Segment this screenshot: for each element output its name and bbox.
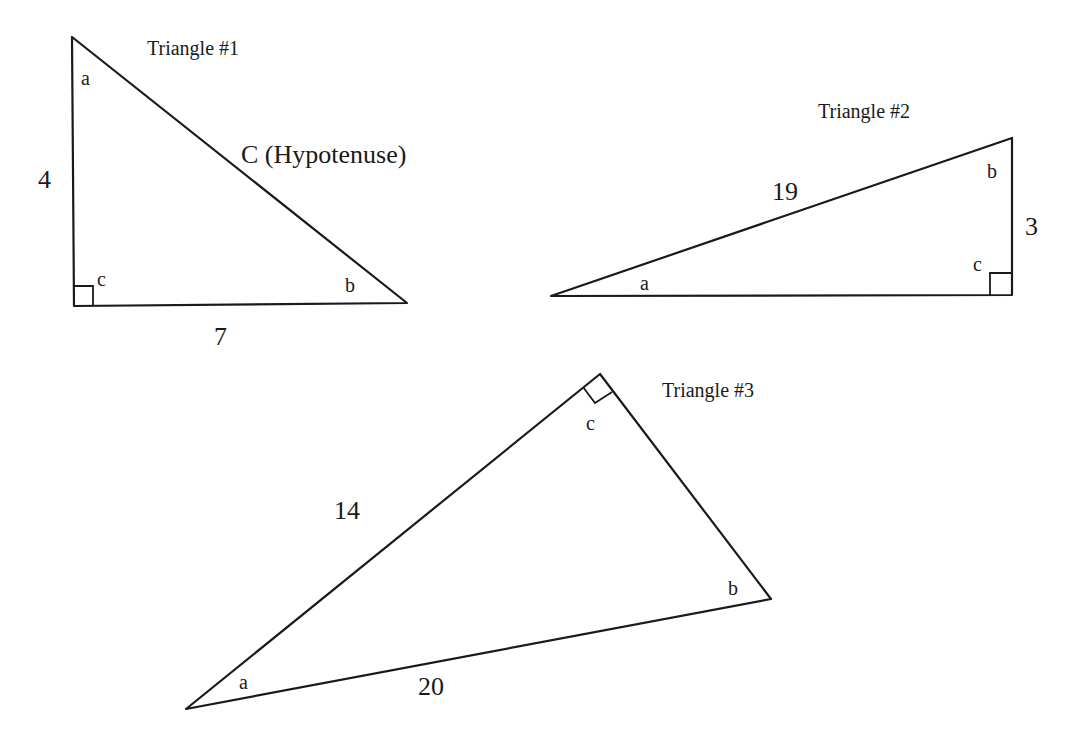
triangle-3-title: Triangle #3	[662, 379, 754, 402]
triangle-1-shape	[72, 37, 407, 306]
triangle-1-angle-b-label: b	[345, 274, 355, 296]
triangle-2-title: Triangle #2	[818, 100, 910, 123]
triangle-1: Triangle #1 a b c 4 7 C (Hypotenuse)	[38, 37, 407, 351]
triangle-3-angle-a-label: a	[239, 671, 248, 693]
triangle-1-hypotenuse-label: C (Hypotenuse)	[241, 140, 406, 169]
triangle-2-shape	[551, 138, 1012, 296]
triangle-3-angle-b-label: b	[728, 577, 738, 599]
triangle-1-side-vertical-label: 4	[38, 165, 51, 194]
triangle-3-right-angle-marker	[583, 387, 612, 403]
triangles-diagram: Triangle #1 a b c 4 7 C (Hypotenuse) Tri…	[0, 0, 1079, 738]
triangle-2-angle-b-label: b	[987, 160, 997, 182]
triangle-2-right-angle-marker	[990, 273, 1012, 295]
triangle-3-side-left-label: 14	[334, 496, 360, 525]
triangle-1-angle-a-label: a	[81, 67, 90, 89]
triangle-2-angle-c-label: c	[973, 253, 982, 275]
triangle-3-shape	[186, 374, 771, 709]
triangle-2-hypotenuse-label: 19	[772, 177, 798, 206]
triangle-2-side-vertical-label: 3	[1025, 212, 1038, 241]
triangle-1-side-horizontal-label: 7	[214, 322, 227, 351]
triangle-3-angle-c-label: c	[586, 412, 595, 434]
triangle-3: Triangle #3 a c b 14 20	[186, 374, 771, 709]
triangle-1-title: Triangle #1	[147, 37, 239, 60]
triangle-2-angle-a-label: a	[640, 272, 649, 294]
triangle-1-right-angle-marker	[74, 286, 93, 306]
triangle-1-angle-c-label: c	[97, 268, 106, 290]
triangle-3-side-bottom-label: 20	[418, 672, 444, 701]
triangle-2: Triangle #2 a b c 19 3	[551, 100, 1038, 296]
